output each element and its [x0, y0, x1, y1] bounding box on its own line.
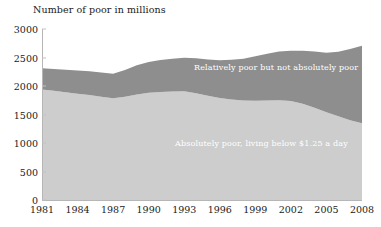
y-axis-tick-label: 500	[2, 166, 38, 177]
x-axis-tick-label: 1981	[30, 204, 54, 215]
y-axis-tick-mark	[42, 171, 46, 172]
y-axis-tick-mark	[42, 57, 46, 58]
x-axis-tick-label: 1999	[243, 204, 267, 215]
x-axis-tick-label: 2005	[314, 204, 338, 215]
chart-axis-title: Number of poor in millions	[33, 4, 166, 15]
y-axis-tick-label: 2000	[2, 81, 38, 92]
y-axis-tick-mark	[42, 143, 46, 144]
area-chart: Number of poor in millions 0500100015002…	[0, 0, 381, 227]
series-label-relatively-poor: Relatively poor but not absolutely poor	[194, 63, 358, 72]
y-axis-tick-mark	[42, 200, 46, 201]
x-axis-tick-label: 1993	[172, 204, 196, 215]
y-axis-tick-mark	[42, 114, 46, 115]
x-axis-tick-label: 1996	[208, 204, 232, 215]
x-axis-tick-label: 2008	[350, 204, 374, 215]
x-axis-tick-label: 1990	[137, 204, 161, 215]
series-label-absolutely-poor: Absolutely poor, living below $1.25 a da…	[175, 139, 348, 148]
y-axis-tick-label: 3000	[2, 24, 38, 35]
plot-area	[42, 29, 362, 200]
y-axis-tick-label: 2500	[2, 52, 38, 63]
y-axis-tick-labels: 050010001500200025003000	[0, 0, 38, 227]
x-axis-line	[42, 200, 362, 201]
y-axis-tick-mark	[42, 29, 46, 30]
y-axis-tick-label: 1500	[2, 109, 38, 120]
x-axis-tick-label: 2002	[279, 204, 303, 215]
y-axis-tick-mark	[42, 86, 46, 87]
x-axis-tick-label: 1987	[101, 204, 125, 215]
y-axis-tick-label: 1000	[2, 138, 38, 149]
x-axis-tick-label: 1984	[65, 204, 89, 215]
stacked-area-svg	[42, 29, 362, 200]
